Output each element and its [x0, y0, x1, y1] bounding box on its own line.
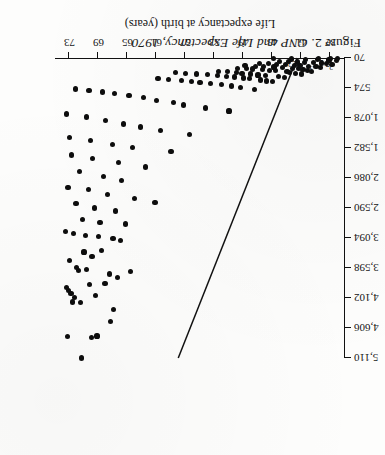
- data-point: [102, 281, 107, 286]
- y-tick: [345, 117, 352, 118]
- data-point: [299, 71, 304, 76]
- data-point: [69, 152, 74, 157]
- data-point: [181, 102, 186, 107]
- data-point: [242, 63, 247, 68]
- data-point: [92, 205, 97, 210]
- data-point: [282, 75, 287, 80]
- data-point: [70, 299, 75, 304]
- figure-caption-number: Figure 2.: [311, 36, 361, 51]
- x-tick-label: 41: [296, 37, 307, 49]
- data-point: [89, 254, 94, 259]
- scanned-figure-page: Figure 2. GNP and Life Expectancy, 1970 …: [0, 0, 385, 455]
- data-point: [179, 78, 184, 83]
- regression-line: [55, 58, 345, 358]
- y-tick-label: 1,582: [354, 142, 379, 154]
- y-tick-label: 1,078: [354, 112, 379, 124]
- x-tick-label: 61: [151, 37, 162, 49]
- data-point: [67, 135, 72, 140]
- y-tick-label: 2,086: [354, 172, 379, 184]
- data-point: [255, 72, 260, 77]
- data-point: [152, 200, 157, 205]
- data-point: [94, 333, 99, 338]
- data-point: [194, 71, 199, 76]
- data-point: [107, 271, 112, 276]
- data-point: [203, 105, 208, 110]
- data-point: [235, 66, 240, 71]
- data-point: [264, 78, 269, 83]
- y-tick: [345, 57, 352, 58]
- data-point: [239, 71, 244, 76]
- y-tick-label: 2,590: [354, 202, 379, 214]
- y-tick-label: 574: [354, 82, 371, 94]
- data-point: [313, 64, 318, 69]
- data-point: [100, 89, 105, 94]
- data-point: [143, 164, 148, 169]
- x-tick-label: 53: [209, 37, 220, 49]
- data-point: [79, 355, 84, 360]
- data-point: [81, 249, 86, 254]
- y-tick-label: 4,606: [354, 322, 379, 334]
- x-tick-label: 69: [93, 37, 104, 49]
- data-point: [99, 248, 104, 253]
- data-point-label: 3: [299, 63, 303, 72]
- data-point: [189, 79, 194, 84]
- data-point-label: 7: [326, 58, 330, 67]
- data-point: [158, 128, 163, 133]
- data-point: [138, 124, 143, 129]
- data-point: [65, 185, 70, 190]
- data-point: [154, 98, 159, 103]
- y-tick-label: 3,094: [354, 232, 379, 244]
- data-point-label: 2: [329, 62, 333, 71]
- y-tick-label: 3,598: [354, 262, 379, 274]
- data-point: [241, 75, 246, 80]
- data-point-label: 2: [293, 59, 297, 68]
- data-point: [84, 114, 89, 119]
- data-point: [80, 217, 85, 222]
- x-tick-label: 49: [238, 37, 249, 49]
- data-point: [238, 85, 243, 90]
- data-point: [89, 335, 94, 340]
- data-point: [110, 236, 115, 241]
- y-tick: [345, 207, 352, 208]
- data-point: [168, 149, 173, 154]
- x-tick-label: 37: [325, 37, 336, 49]
- data-point-label: 3: [309, 64, 313, 73]
- y-tick: [345, 327, 352, 328]
- data-point: [83, 233, 88, 238]
- data-point: [197, 80, 202, 85]
- data-point: [248, 71, 253, 76]
- x-axis-title: Life expectancy at birth (years): [125, 16, 276, 31]
- y-tick-label: 70: [354, 52, 365, 64]
- x-tick-label: 65: [122, 37, 133, 49]
- data-point: [126, 93, 131, 98]
- x-tick-label: 57: [180, 37, 191, 49]
- data-point: [226, 108, 231, 113]
- x-tick-label: 45: [267, 37, 278, 49]
- data-point: [97, 220, 102, 225]
- y-tick: [345, 357, 352, 358]
- scatter-plot: 705741,0781,5822,0862,5903,0943,5984,102…: [55, 58, 345, 358]
- y-tick: [345, 177, 352, 178]
- y-tick-label: 4,102: [354, 292, 379, 304]
- y-tick-label: 5,110: [354, 352, 378, 364]
- y-tick: [345, 297, 352, 298]
- data-point: [121, 121, 126, 126]
- data-point: [67, 258, 72, 263]
- y-tick: [345, 237, 352, 238]
- y-tick: [345, 87, 352, 88]
- data-point: [86, 88, 91, 93]
- data-point: [123, 221, 128, 226]
- data-point: [105, 192, 110, 197]
- data-point: [284, 69, 289, 74]
- data-point-label: 2: [319, 58, 323, 67]
- data-point: [224, 74, 229, 79]
- y-tick: [345, 267, 352, 268]
- data-point: [110, 142, 115, 147]
- y-tick: [345, 147, 352, 148]
- data-point: [64, 111, 69, 116]
- x-tick-label: 73: [64, 37, 75, 49]
- data-point-label: 3: [288, 59, 292, 68]
- data-point: [73, 86, 78, 91]
